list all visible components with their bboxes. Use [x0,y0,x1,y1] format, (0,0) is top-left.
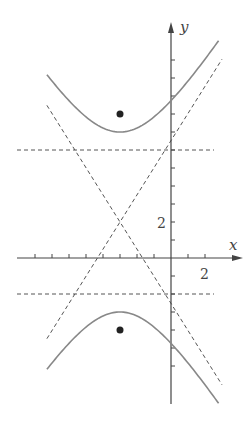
y-tick-label: 2 [157,215,166,231]
x-tick-label: 2 [200,266,209,282]
asymptote-line-1 [47,59,222,339]
y-axis-label: y [179,18,189,36]
hyperbola-diagram: xy22 [0,0,247,434]
x-axis-label: x [229,236,238,254]
upper-branch [47,41,219,132]
y-axis-arrow-icon [168,22,174,33]
asymptote-line-2 [47,105,222,385]
lower-branch [47,312,219,403]
x-axis-arrow-icon [232,255,243,261]
focus-point-1 [117,111,124,118]
focus-point-2 [117,327,124,334]
